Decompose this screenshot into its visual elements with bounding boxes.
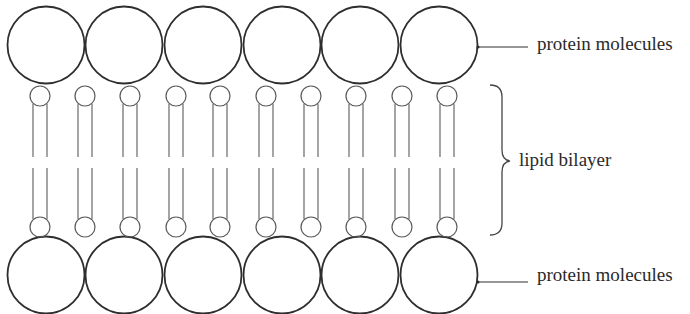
lipid-head-bottom bbox=[437, 217, 457, 237]
lipid-head-bottom bbox=[75, 217, 95, 237]
lipid-head-bottom bbox=[166, 217, 186, 237]
protein-molecule-top bbox=[401, 7, 478, 84]
protein-molecule-bottom bbox=[401, 237, 478, 314]
lipid-head-top bbox=[256, 86, 276, 106]
lipid-head-top bbox=[346, 86, 366, 106]
protein-molecule-top bbox=[165, 7, 242, 84]
label-lipid-bilayer: lipid bilayer bbox=[519, 150, 611, 169]
lipid-head-bottom bbox=[301, 217, 321, 237]
lipid-head-top bbox=[166, 86, 186, 106]
lipid-head-top bbox=[437, 86, 457, 106]
lipid-head-bottom bbox=[210, 217, 230, 237]
lipid-head-top bbox=[392, 86, 412, 106]
leader-dot-top bbox=[477, 46, 480, 49]
lipid-head-bottom bbox=[120, 217, 140, 237]
protein-molecule-bottom bbox=[8, 237, 85, 314]
membrane-diagram: protein molecules lipid bilayer protein … bbox=[0, 0, 690, 314]
lipid-head-top bbox=[210, 86, 230, 106]
protein-molecule-bottom bbox=[244, 237, 321, 314]
protein-molecule-top bbox=[244, 7, 321, 84]
lipid-head-top bbox=[120, 86, 140, 106]
label-top-protein-molecules: protein molecules bbox=[537, 34, 673, 53]
protein-molecule-bottom bbox=[86, 237, 163, 314]
lipid-head-bottom bbox=[256, 217, 276, 237]
lipid-head-bottom bbox=[392, 217, 412, 237]
label-bottom-protein-molecules: protein molecules bbox=[537, 265, 673, 284]
lipid-head-top bbox=[301, 86, 321, 106]
lipid-head-top bbox=[75, 86, 95, 106]
protein-molecule-top bbox=[86, 7, 163, 84]
lipid-head-bottom bbox=[30, 217, 50, 237]
lipid-head-top bbox=[30, 86, 50, 106]
leader-dot-bottom bbox=[477, 281, 480, 284]
protein-molecule-bottom bbox=[165, 237, 242, 314]
lipid-head-bottom bbox=[346, 217, 366, 237]
protein-molecule-top bbox=[8, 7, 85, 84]
protein-molecule-top bbox=[322, 7, 399, 84]
curly-brace-icon bbox=[490, 85, 510, 235]
protein-molecule-bottom bbox=[322, 237, 399, 314]
